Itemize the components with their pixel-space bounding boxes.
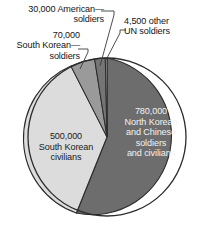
callout-south-korean-soldiers: 70,000 South Korean— soldiers — [2, 30, 80, 61]
pie-chart-figure: 30,000 American— soldiers 70,000 South K… — [0, 0, 200, 232]
callout-american-soldiers: 30,000 American— soldiers — [4, 4, 104, 25]
callout-other-un-soldiers: 4,500 other UN soldiers — [124, 16, 198, 37]
slice-label-south-korean-civilians: 500,000 South Korean civilians — [28, 131, 104, 163]
slice-label-north-korean-chinese: 780,000 North Korean and Chinese soldier… — [112, 106, 190, 159]
